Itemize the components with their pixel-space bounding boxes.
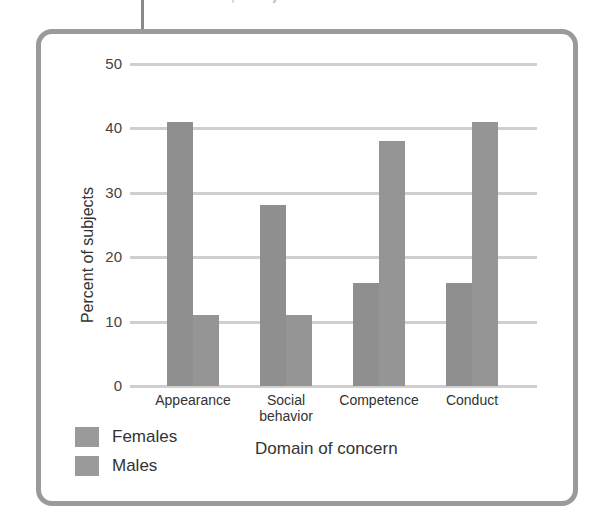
figure-caption-fragment: from Harter, 1990) [150, 0, 278, 3]
bar-males [286, 315, 312, 386]
y-tick-label: 30 [82, 184, 122, 201]
bar-females [353, 283, 379, 386]
x-tick-label: Conduct [422, 392, 522, 408]
legend-swatch-females [75, 427, 99, 447]
bar-males [379, 141, 405, 386]
gridline [130, 63, 537, 66]
bar-males [193, 315, 219, 386]
x-axis-title: Domain of concern [255, 439, 398, 459]
legend-label-males: Males [112, 456, 157, 476]
y-tick-label: 10 [82, 313, 122, 330]
x-tick-label: Appearance [143, 392, 243, 408]
bar-females [260, 205, 286, 386]
y-tick-label: 0 [82, 377, 122, 394]
y-tick-label: 40 [82, 119, 122, 136]
legend-label-females: Females [112, 427, 177, 447]
y-tick-label: 50 [82, 55, 122, 72]
bar-females [167, 122, 193, 386]
bar-females [446, 283, 472, 386]
y-tick-label: 20 [82, 248, 122, 265]
x-tick-label: Competence [329, 392, 429, 408]
bar-males [472, 122, 498, 386]
legend-swatch-males [75, 456, 99, 476]
x-tick-label: Socialbehavior [236, 392, 336, 424]
